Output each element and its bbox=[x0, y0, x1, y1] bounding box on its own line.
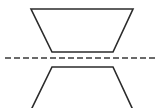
diagram-canvas: cropped caption bbox=[0, 0, 163, 108]
figure-background bbox=[0, 0, 163, 108]
geometry-figure bbox=[0, 0, 163, 108]
